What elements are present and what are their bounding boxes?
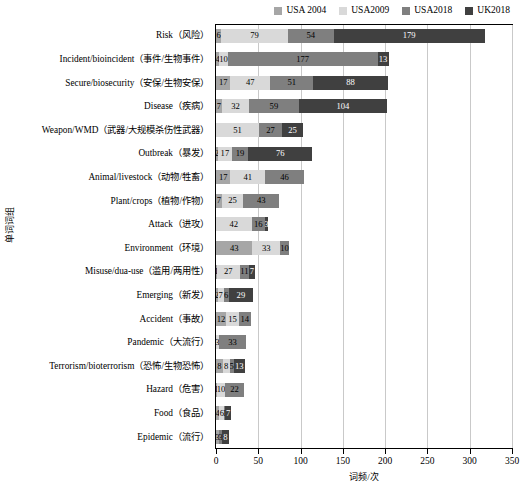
- legend-label-usa-2009: USA2009: [351, 6, 389, 16]
- category-label: Incident/bioincident（事件/生物事件）: [3, 54, 215, 65]
- bar-segment: 79: [221, 29, 288, 43]
- legend-item-usa-2009: USA2009: [339, 6, 389, 16]
- x-axis-tick-label: 50: [254, 456, 264, 466]
- bar-segment: 10: [280, 241, 288, 255]
- legend-swatch-icon-usa-2018: [402, 7, 410, 15]
- bar-value-label: 6: [216, 31, 220, 40]
- bar-segment: 3: [265, 217, 268, 231]
- bar-value-label: 15: [228, 315, 237, 324]
- category-label: Weapon/WMD（武器/大规模杀伤性武器）: [3, 125, 215, 136]
- bar-value-label: 19: [236, 149, 245, 158]
- category-label: Epidemic（流行）: [3, 432, 215, 443]
- bar-segment: 43: [216, 241, 252, 255]
- bar-value-label: 6: [224, 291, 228, 300]
- x-axis-tick-label: 100: [293, 456, 307, 466]
- bar-row: Disease（疾病）73259104: [215, 95, 513, 119]
- stacked-bar: 72543: [216, 194, 279, 208]
- bar-value-label: 10: [280, 244, 288, 253]
- bar-value-label: 10: [219, 55, 227, 64]
- bar-value-label: 46: [280, 173, 289, 182]
- bar-segment: 13: [378, 52, 389, 66]
- bar-segment: 17: [216, 76, 230, 90]
- bar-segment: 10: [217, 383, 225, 397]
- bar-value-label: 179: [403, 31, 416, 40]
- bar-value-label: 42: [229, 220, 238, 229]
- bar-value-label: 17: [219, 78, 228, 87]
- bar-row: Pandemic（大流行）333: [215, 331, 513, 355]
- bar-segment: 33: [219, 335, 247, 349]
- bar-segment: 19: [232, 147, 248, 161]
- x-axis-tick: [512, 449, 513, 454]
- stacked-bar: 3138: [216, 430, 229, 444]
- category-label: Accident（事故）: [3, 314, 215, 325]
- category-label: Food（食品）: [3, 408, 215, 419]
- bar-value-label: 177: [296, 55, 309, 64]
- legend-swatch-icon-usa-2004: [274, 7, 282, 15]
- bar-value-label: 76: [276, 149, 285, 158]
- x-axis-tick: [258, 449, 259, 454]
- stacked-bar: 88513: [216, 359, 245, 373]
- bar-segment: 51: [216, 123, 259, 137]
- legend-label-uk-2018: UK2018: [477, 6, 510, 16]
- bar-value-label: 88: [346, 78, 355, 87]
- legend-swatch-icon-usa-2009: [339, 7, 347, 15]
- bar-value-label: 79: [250, 31, 259, 40]
- bar-value-label: 10: [217, 385, 225, 394]
- stacked-bar: 121514: [216, 312, 251, 326]
- bar-segment: 88: [313, 76, 387, 90]
- bar-value-label: 13: [379, 55, 388, 64]
- x-axis-tick-label: 0: [214, 456, 219, 466]
- bar-value-label: 27: [224, 267, 233, 276]
- x-axis-tick-label: 350: [505, 456, 519, 466]
- legend-swatch-icon-uk-2018: [465, 7, 473, 15]
- bar-segment: 10: [219, 52, 227, 66]
- bar-rows: Risk（风险）67954179Incident/bioincident（事件/…: [215, 24, 513, 449]
- bar-segment: 59: [249, 99, 299, 113]
- x-axis-tick: [385, 449, 386, 454]
- bar-value-label: 6: [220, 409, 224, 418]
- bar-segment: 177: [228, 52, 378, 66]
- bar-segment: 43: [243, 194, 279, 208]
- bar-row: Food（食品）4617: [215, 402, 513, 426]
- category-label: Plant/crops（植物/作物）: [3, 196, 215, 207]
- bar-value-label: 13: [235, 362, 244, 371]
- bar-row: Plant/crops（植物/作物）72543: [215, 189, 513, 213]
- bar-value-label: 14: [240, 315, 249, 324]
- bar-value-label: 104: [336, 102, 349, 111]
- bar-segment: 16: [252, 217, 266, 231]
- bar-value-label: 7: [250, 267, 254, 276]
- bar-value-label: 54: [306, 31, 315, 40]
- bar-segment: 7: [249, 265, 255, 279]
- stacked-bar: 17475188: [216, 76, 388, 90]
- bar-value-label: 27: [266, 126, 275, 135]
- category-label: Pandemic（大流行）: [3, 337, 215, 348]
- bar-row: Accident（事故）121514: [215, 307, 513, 331]
- category-label: Terrorism/bioterrorism（恐怖/生物恐怖）: [3, 361, 215, 372]
- bar-value-label: 33: [228, 338, 237, 347]
- x-axis-tick: [427, 449, 428, 454]
- bar-segment: 7: [225, 406, 231, 420]
- bar-row: Terrorism/bioterrorism（恐怖/生物恐怖）88513: [215, 355, 513, 379]
- bar-value-label: 33: [262, 244, 271, 253]
- bar-value-label: 43: [257, 196, 266, 205]
- stacked-bar: 512725: [216, 123, 303, 137]
- category-label: Risk（风险）: [3, 30, 215, 41]
- bar-segment: 29: [229, 288, 254, 302]
- bar-value-label: 43: [230, 244, 239, 253]
- bar-value-label: 12: [217, 315, 226, 324]
- stacked-bar: 73259104: [216, 99, 387, 113]
- bar-value-label: 8: [217, 362, 221, 371]
- category-label: Outbreak（暴发）: [3, 148, 215, 159]
- bar-value-label: 7: [226, 409, 230, 418]
- bar-row: Outbreak（暴发）2171976: [215, 142, 513, 166]
- bar-segment: 12: [216, 312, 226, 326]
- bar-segment: 15: [226, 312, 239, 326]
- bar-row: Incident/bioincident（事件/生物事件）41017713: [215, 48, 513, 72]
- x-axis-tick-label: 200: [378, 456, 392, 466]
- bar-value-label: 41: [243, 173, 252, 182]
- bar-segment: 42: [216, 217, 252, 231]
- bar-segment: 25: [222, 194, 243, 208]
- bar-segment: 32: [222, 99, 249, 113]
- bar-row: Weapon/WMD（武器/大规模杀伤性武器）512725: [215, 118, 513, 142]
- bar-row: Animal/livestock（动物/牲畜）174146: [215, 166, 513, 190]
